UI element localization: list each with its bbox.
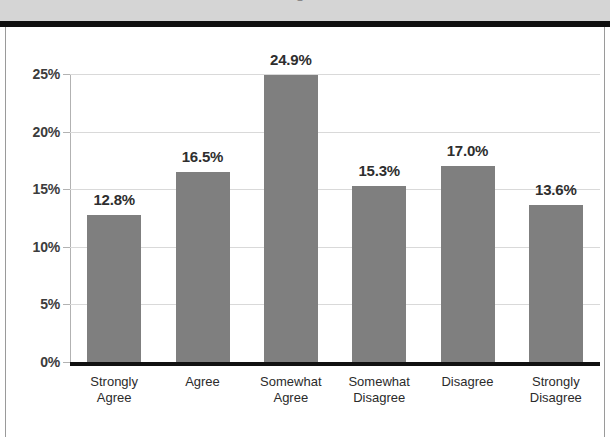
x-axis-category-label: Somewhat Agree (241, 374, 341, 407)
gridline (70, 247, 600, 248)
gridline (70, 132, 600, 133)
bar-value-label: 16.5% (153, 148, 253, 165)
x-axis-category-label: Somewhat Disagree (329, 374, 429, 407)
bar[interactable] (529, 205, 583, 362)
x-axis-category-label: Strongly Agree (64, 374, 164, 407)
gridline (70, 74, 600, 75)
y-axis-tick (63, 362, 70, 363)
bar-chart: 0%5%10%15%20%25% 12.8%16.5%24.9%15.3%17.… (0, 27, 610, 437)
cropped-title-text: Figure (0, 0, 610, 1)
y-axis-tick (63, 74, 70, 75)
x-axis-category-label: Strongly Disagree (506, 374, 606, 407)
bar[interactable] (352, 186, 406, 362)
y-axis-tick-label: 0% (2, 354, 60, 370)
bar[interactable] (176, 172, 230, 362)
bar-value-label: 12.8% (64, 191, 164, 208)
bar-value-label: 17.0% (418, 142, 518, 159)
y-axis-labels: 0%5%10%15%20%25% (0, 27, 60, 437)
chart-page: Figure 0%5%10%15%20%25% 12.8%16.5%24.9%1… (0, 0, 610, 437)
bar[interactable] (87, 215, 141, 362)
y-axis-tick (63, 247, 70, 248)
plot-area (70, 74, 600, 362)
bar-value-label: 13.6% (506, 181, 606, 198)
x-axis-category-label: Disagree (418, 374, 518, 390)
y-axis-tick-label: 25% (2, 66, 60, 82)
x-axis-category-label: Agree (153, 374, 253, 390)
y-axis-tick-label: 5% (2, 296, 60, 312)
gridline (70, 304, 600, 305)
y-axis-tick (63, 304, 70, 305)
y-axis-tick (63, 132, 70, 133)
bar[interactable] (264, 75, 318, 362)
x-axis-line (70, 362, 600, 366)
bar[interactable] (441, 166, 495, 362)
y-axis-tick-label: 20% (2, 124, 60, 140)
y-axis-tick-label: 10% (2, 239, 60, 255)
header-band: Figure (0, 0, 610, 21)
bar-value-label: 24.9% (241, 51, 341, 68)
y-axis-tick-label: 15% (2, 181, 60, 197)
bar-value-label: 15.3% (329, 162, 429, 179)
